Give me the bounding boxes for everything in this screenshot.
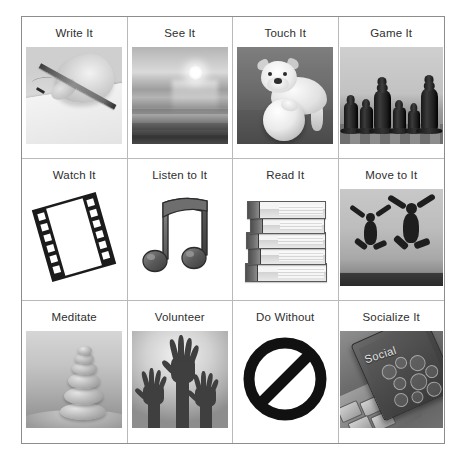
grid-cell-listen-to-it[interactable]: Listen to It <box>128 159 234 301</box>
grid-cell-watch-it[interactable]: Watch It <box>22 159 128 301</box>
cell-label: See It <box>164 26 195 40</box>
raised-hands-photo <box>132 331 228 428</box>
cell-label: Read It <box>266 168 304 182</box>
grid-cell-meditate[interactable]: Meditate <box>22 301 128 443</box>
grid-cell-game-it[interactable]: Game It <box>339 17 445 159</box>
cell-label: Game It <box>370 26 412 40</box>
grid-cell-do-without[interactable]: Do Without <box>233 301 339 443</box>
cell-label: Listen to It <box>152 168 207 182</box>
sunset-ocean-photo <box>132 47 228 144</box>
cell-label: Touch It <box>265 26 306 40</box>
cell-label: Do Without <box>256 310 314 324</box>
cell-label: Move to It <box>365 168 417 182</box>
cell-label: Socialize It <box>363 310 420 324</box>
grid-cell-move-to-it[interactable]: Move to It <box>339 159 445 301</box>
grid-cell-touch-it[interactable]: Touch It <box>233 17 339 159</box>
jumping-people-photo <box>340 189 443 286</box>
film-strip-icon <box>26 189 122 286</box>
cell-label: Meditate <box>52 310 97 324</box>
phone-social-photo: Social <box>340 331 443 428</box>
page-root: Write It See It Touch It <box>0 0 465 468</box>
coping-skills-grid: Write It See It Touch It <box>21 16 445 444</box>
cell-label: Volunteer <box>155 310 205 324</box>
stacked-stones-photo <box>26 331 122 428</box>
prohibition-sign-icon <box>237 331 333 428</box>
film-strip-glyph <box>26 189 122 286</box>
grid-cell-volunteer[interactable]: Volunteer <box>128 301 234 443</box>
beamed-eighth-notes-glyph <box>132 189 228 286</box>
no-entry-glyph <box>237 331 333 428</box>
bulldog-with-ball-photo <box>237 47 333 144</box>
grid-cell-write-it[interactable]: Write It <box>22 17 128 159</box>
grid-cell-socialize-it[interactable]: Socialize It Social <box>339 301 445 443</box>
chess-pieces-photo <box>340 47 443 144</box>
writing-hand-photo <box>26 47 122 144</box>
music-note-icon <box>132 189 228 286</box>
grid-cell-see-it[interactable]: See It <box>128 17 234 159</box>
cell-label: Write It <box>56 26 93 40</box>
grid-cell-read-it[interactable]: Read It <box>233 159 339 301</box>
stack-of-books-photo <box>237 189 333 286</box>
cell-label: Watch It <box>53 168 96 182</box>
